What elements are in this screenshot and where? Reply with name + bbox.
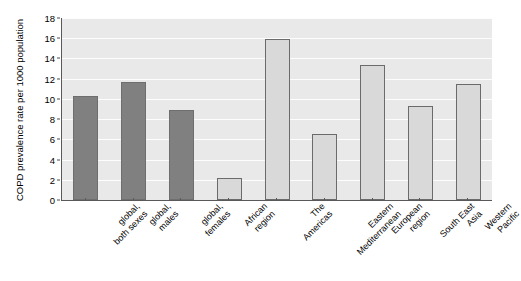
x-tick-mark <box>467 198 468 201</box>
bar-series <box>62 18 492 200</box>
bar-slot <box>62 18 110 200</box>
y-axis-title: COPD prevalence rate per 1000 population <box>14 19 26 201</box>
y-tick-label: 0 <box>50 195 55 206</box>
x-tick-mark <box>85 198 86 201</box>
x-tick-label: TheAmericas <box>293 201 334 242</box>
bar <box>456 84 481 200</box>
x-axis-tick-labels: global,both sexesglobal,malesglobal,fema… <box>61 201 491 281</box>
y-tick-mark <box>57 78 60 79</box>
bar-slot <box>301 18 349 200</box>
bar <box>408 106 433 200</box>
x-tick-label: South EastAsia <box>438 201 484 247</box>
bar-slot <box>396 18 444 200</box>
bar <box>312 134 337 200</box>
x-tick-mark <box>276 198 277 201</box>
y-tick-mark <box>57 159 60 160</box>
bar-slot <box>349 18 397 200</box>
y-axis-tick-labels: 024681012141618 <box>38 18 58 200</box>
bar-slot <box>205 18 253 200</box>
y-tick-mark <box>57 200 60 201</box>
y-tick-label: 18 <box>44 13 55 24</box>
bar <box>360 65 385 200</box>
y-tick-label: 8 <box>50 114 55 125</box>
x-tick-mark <box>324 198 325 201</box>
plot-area <box>61 18 492 201</box>
y-tick-label: 14 <box>44 53 55 64</box>
y-tick-label: 10 <box>44 93 55 104</box>
y-tick-label: 6 <box>50 134 55 145</box>
bar <box>169 110 194 200</box>
bar-slot <box>158 18 206 200</box>
y-tick-label: 4 <box>50 154 55 165</box>
y-tick-mark <box>57 58 60 59</box>
x-tick-mark <box>228 198 229 201</box>
y-tick-mark <box>57 119 60 120</box>
y-tick-label: 16 <box>44 33 55 44</box>
bar <box>217 178 242 200</box>
y-tick-mark <box>57 18 60 19</box>
y-tick-mark <box>57 98 60 99</box>
x-tick-mark <box>180 198 181 201</box>
x-tick-label: global,females <box>196 201 233 238</box>
x-tick-label: Africanregion <box>242 201 277 236</box>
bar-slot <box>253 18 301 200</box>
y-tick-label: 2 <box>50 174 55 185</box>
x-tick-label: global,both sexes <box>104 201 150 247</box>
y-tick-mark <box>57 179 60 180</box>
y-tick-mark <box>57 38 60 39</box>
bar <box>73 96 98 200</box>
y-tick-label: 12 <box>44 73 55 84</box>
bar-slot <box>110 18 158 200</box>
bar <box>265 39 290 200</box>
x-tick-label: global,males <box>146 201 180 235</box>
x-tick-mark <box>419 198 420 201</box>
x-tick-label: WesternPacific <box>483 201 521 239</box>
bar-slot <box>444 18 492 200</box>
y-axis-title-container: COPD prevalence rate per 1000 population <box>0 18 40 202</box>
x-tick-mark <box>133 198 134 201</box>
y-tick-mark <box>57 139 60 140</box>
x-tick-mark <box>372 198 373 201</box>
bar <box>121 82 146 200</box>
